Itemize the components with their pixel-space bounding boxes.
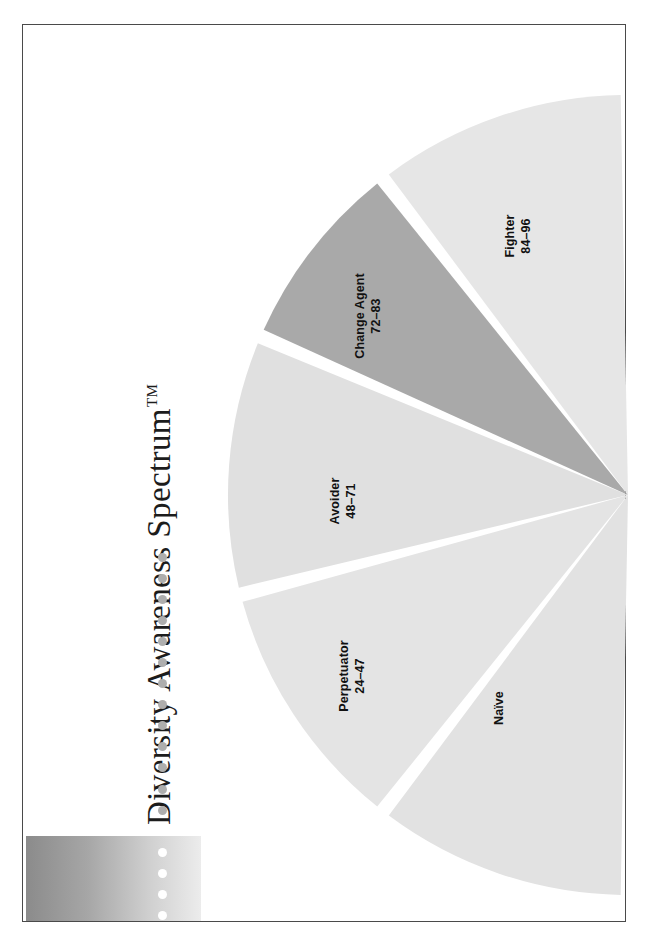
rule-dot [158,553,167,562]
rule-dot [158,848,167,857]
rule-dot [158,742,167,751]
segment-range: 24–47 [352,621,368,731]
rule-dot [158,890,167,899]
rule-dot [158,595,167,604]
figure-frame: Diversity Awareness SpectrumTM [22,24,626,922]
rule-dot [158,806,167,815]
rule-dot [158,637,167,646]
rule-dot [158,911,167,920]
rule-dot [158,785,167,794]
rule-dot [158,658,167,667]
segment-range: 72–83 [368,253,384,379]
segment-name: Avoider [328,478,342,525]
spectrum-gradient-bar [26,836,201,921]
rule-dot [158,721,167,730]
dotted-rule [155,553,169,941]
segment-label-fighter: Fighter 84–96 [502,187,534,285]
segment-name: Naïve [492,691,506,725]
rule-dot [158,574,167,583]
segment-range: 48–71 [343,451,359,551]
spectrum-gradient-svg [26,836,201,921]
diversity-awareness-spectrum-chart: Naïve Perpetuator 24–47 Avoider 48–71 Ch… [183,60,643,930]
segment-label-perpetuator: Perpetuator 24–47 [336,621,368,731]
rule-dot [158,679,167,688]
segment-name: Perpetuator [337,640,351,711]
rule-dot [158,827,167,836]
segment-label-naive: Naïve [491,660,507,756]
segment-label-avoider: Avoider 48–71 [327,451,359,551]
rule-dot [158,616,167,625]
rule-dot [158,932,167,941]
segment-name: Fighter [503,214,517,257]
rule-dot [158,869,167,878]
segment-name: Change Agent [353,273,367,358]
segment-label-change-agent: Change Agent 72–83 [352,253,384,379]
fan-chart-svg [183,60,643,930]
segment-range: 84–96 [518,187,534,285]
trademark-symbol: TM [144,384,161,408]
rule-dot [158,763,167,772]
rule-dot [158,700,167,709]
